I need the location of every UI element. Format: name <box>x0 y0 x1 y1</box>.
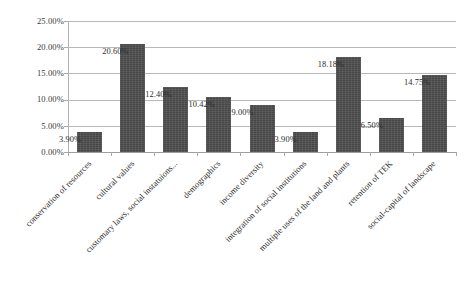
bar-value-label: 3.90% <box>275 136 297 144</box>
x-axis-category-labels: conservation of resourcescultural values… <box>0 152 476 287</box>
bar-value-label: 12.40% <box>145 91 171 99</box>
y-axis-tick-label: 20.00% <box>4 43 64 52</box>
bar-value-label: 6.50% <box>361 122 383 130</box>
bar-chart: 0.00%5.00%10.00%15.00%20.00%25.00% 3.90%… <box>0 0 476 287</box>
gridline <box>68 21 456 22</box>
y-axis-line <box>68 21 69 152</box>
y-axis-tick-label: 10.00% <box>4 95 64 104</box>
bar-value-label: 14.75% <box>404 79 430 87</box>
bar-value-label: 20.60% <box>102 48 128 56</box>
y-axis-tick-label: 15.00% <box>4 69 64 78</box>
bar-value-label: 10.42% <box>188 101 214 109</box>
bar-value-label: 3.90% <box>59 136 81 144</box>
bar <box>336 57 361 152</box>
bar <box>120 44 145 152</box>
y-axis-tick-label: 25.00% <box>4 17 64 26</box>
plot-area: 3.90%20.60%12.40%10.42%9.00%3.90%18.18%6… <box>68 21 456 152</box>
bar-value-label: 9.00% <box>232 109 254 117</box>
y-axis-tick-label: 5.00% <box>4 122 64 131</box>
bar-value-label: 18.18% <box>318 61 344 69</box>
x-axis-category-label: conservation of resources <box>0 159 93 287</box>
y-axis-tick-labels: 0.00%5.00%10.00%15.00%20.00%25.00% <box>0 21 64 152</box>
x-axis-category-label: social-capital of landscape <box>290 159 437 287</box>
